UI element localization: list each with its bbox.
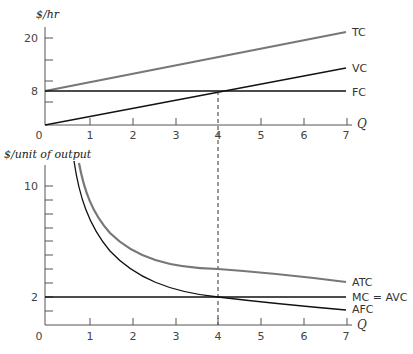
bottom-x-tick-6: 6 [301, 330, 308, 343]
fc-label: FC [352, 86, 366, 99]
tc-curve [45, 32, 346, 91]
top-x-tick-6: 6 [301, 129, 308, 142]
bottom-y-ticks [45, 186, 53, 311]
bottom-y-tick-2: 2 [31, 291, 38, 304]
atc-curve [79, 163, 346, 282]
vc-curve [45, 68, 346, 125]
afc-label: AFC [352, 303, 374, 316]
top-x-axis-title: Q [357, 117, 367, 131]
top-y-tick-20: 20 [24, 32, 38, 45]
top-chart: $/hr 20 8 0 1 2 3 4 5 6 [24, 8, 368, 142]
top-y-ticks [45, 38, 53, 102]
top-x-tick-1: 1 [87, 129, 94, 142]
top-x-tick-3: 3 [173, 129, 180, 142]
bottom-x-tick-3: 3 [173, 330, 180, 343]
top-x-tick-7: 7 [343, 129, 350, 142]
top-x-tick-5: 5 [258, 129, 265, 142]
bottom-x-tick-labels: 0 1 2 3 4 5 6 7 [36, 330, 350, 343]
top-x-tick-2: 2 [130, 129, 137, 142]
top-y-axis-title: $/hr [36, 8, 60, 21]
bottom-x-tick-1: 1 [87, 330, 94, 343]
bottom-y-tick-10: 10 [24, 180, 38, 193]
afc-curve [74, 161, 346, 310]
bottom-chart: $/unit of output 10 2 [4, 148, 408, 343]
atc-label: ATC [352, 276, 373, 289]
cost-curves-figure: $/hr 20 8 0 1 2 3 4 5 6 [0, 0, 413, 354]
vc-label: VC [352, 62, 368, 75]
bottom-x-tick-0: 0 [36, 330, 43, 343]
bottom-x-tick-4: 4 [215, 330, 222, 343]
bottom-y-axis-title: $/unit of output [4, 148, 92, 161]
top-y-tick-8: 8 [31, 85, 38, 98]
bottom-x-axis-title: Q [357, 318, 367, 332]
bottom-x-tick-7: 7 [343, 330, 350, 343]
bottom-x-tick-2: 2 [130, 330, 137, 343]
bottom-x-tick-5: 5 [258, 330, 265, 343]
tc-label: TC [351, 26, 366, 39]
bottom-x-ticks [90, 318, 347, 325]
top-x-tick-labels: 0 1 2 3 4 5 6 7 [36, 129, 350, 142]
top-x-tick-0: 0 [36, 129, 43, 142]
